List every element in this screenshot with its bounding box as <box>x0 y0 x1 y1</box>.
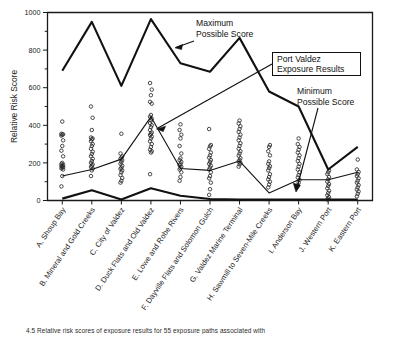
annotation-maximum-line2: Possible Score <box>196 29 254 39</box>
data-point <box>149 93 153 97</box>
data-point <box>90 128 94 132</box>
annotation-maximum-arrowhead <box>175 44 183 49</box>
data-point <box>297 137 301 141</box>
data-point <box>207 127 211 131</box>
annotation-exposure-line2: Exposure Results <box>277 64 344 74</box>
data-point <box>61 120 65 124</box>
data-point <box>179 123 183 127</box>
data-point <box>178 144 182 148</box>
annotation-minimum-line2: Possible Score <box>297 97 355 107</box>
data-point <box>209 181 213 185</box>
x-axis-category-label-7: G. Valdez Marine Terminal <box>188 205 245 284</box>
data-point <box>120 132 124 136</box>
data-point <box>178 179 182 183</box>
data-point <box>179 175 183 179</box>
risk-score-figure: 02004006008001000Relative Risk ScoreA. S… <box>0 0 411 343</box>
data-point <box>150 88 154 92</box>
y-axis-tick-label: 200 <box>29 159 41 168</box>
series-line-minimum-possible-score <box>62 188 357 199</box>
x-axis-category-label-4: D. Duck Flats and Old Valdez <box>93 205 156 292</box>
data-point <box>296 142 300 146</box>
figure-caption: 4.5 Relative risk scores of exposure res… <box>26 327 396 334</box>
plot-frame <box>48 13 373 201</box>
annotation-exposure-line1: Port Valdez <box>277 54 321 64</box>
y-axis-tick-label: 0 <box>37 196 41 205</box>
x-axis-category-label-5: E. Lowe and Robe Rivers <box>130 205 186 282</box>
data-point <box>180 152 184 156</box>
y-axis-title: Relative Risk Score <box>9 70 19 143</box>
y-axis-tick-label: 400 <box>29 121 41 130</box>
relative-risk-score-chart: 02004006008001000Relative Risk ScoreA. S… <box>0 0 411 343</box>
data-point <box>356 158 360 162</box>
data-point <box>61 139 64 143</box>
data-point <box>148 81 152 85</box>
data-point <box>91 116 95 120</box>
x-axis-category-label-2: B. Mineral and Gold Creeks <box>37 205 97 288</box>
data-point <box>60 185 64 189</box>
data-point <box>207 193 211 197</box>
data-point <box>179 137 183 141</box>
y-axis-tick-label: 800 <box>29 46 41 55</box>
data-point <box>61 144 65 148</box>
data-point <box>268 154 272 158</box>
data-point <box>180 133 184 137</box>
y-axis-tick-label: 1000 <box>25 8 41 17</box>
annotation-minimum-line1: Minimum <box>297 86 332 96</box>
data-point <box>148 172 152 176</box>
annotation-exposure-arrowhead <box>157 126 166 131</box>
y-axis-tick-label: 600 <box>29 83 41 92</box>
data-point <box>178 128 182 132</box>
x-axis-category-label-1: A. Shoup Bay <box>34 205 68 249</box>
annotation-exposure-leader <box>158 64 272 128</box>
annotation-maximum-line1: Maximum <box>196 18 233 28</box>
data-point <box>119 152 123 156</box>
data-point <box>89 105 93 109</box>
data-point <box>266 149 270 153</box>
data-point <box>60 149 64 153</box>
data-point <box>208 187 212 191</box>
data-point <box>61 155 64 159</box>
data-point <box>89 174 93 178</box>
